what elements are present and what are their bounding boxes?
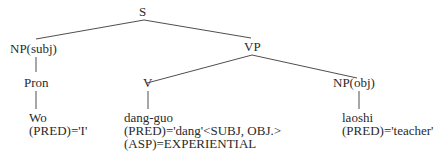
leaf-wo: Wo (PRED)='I' bbox=[29, 111, 87, 137]
node-pron: Pron bbox=[24, 76, 49, 89]
edge-vp-v bbox=[147, 55, 252, 83]
leaf-feature: (PRED)='I' bbox=[29, 124, 87, 137]
leaf-dang-guo: dang-guo (PRED)='dang'<SUBJ, OBJ.> (ASP)… bbox=[124, 111, 281, 150]
node-s: S bbox=[139, 5, 146, 18]
node-vp: VP bbox=[244, 40, 261, 53]
leaf-laoshi: laoshi (PRED)='teacher' bbox=[342, 111, 433, 137]
node-v: V bbox=[143, 76, 152, 89]
edge-s-vp bbox=[144, 20, 251, 38]
node-np-subj: NP(subj) bbox=[10, 42, 57, 55]
edge-s-npsubj bbox=[36, 20, 144, 39]
leaf-feature: (ASP)=EXPERIENTIAL bbox=[124, 137, 281, 150]
leaf-feature: (PRED)='teacher' bbox=[342, 124, 433, 137]
node-np-obj: NP(obj) bbox=[333, 76, 375, 89]
